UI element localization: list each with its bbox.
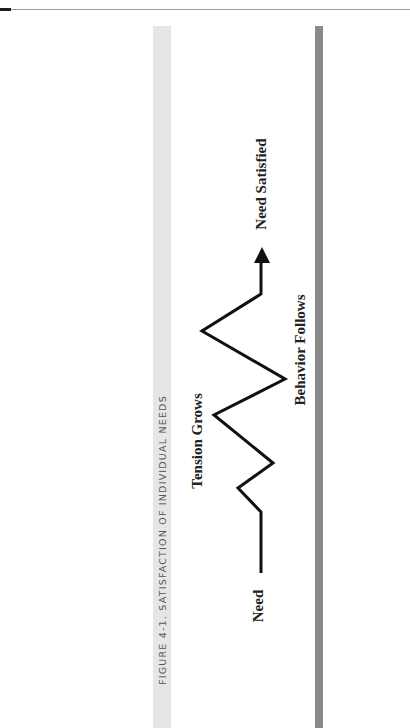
label-behavior-follows: Behavior Follows	[292, 295, 309, 406]
tension-zigzag-line	[202, 262, 285, 573]
label-tension-grows: Tension Grows	[189, 393, 206, 488]
label-need-satisfied: Need Satisfied	[253, 138, 270, 229]
label-need: Need	[250, 590, 267, 623]
arrowhead-icon	[254, 247, 270, 263]
needs-zigzag-diagram	[0, 0, 410, 728]
